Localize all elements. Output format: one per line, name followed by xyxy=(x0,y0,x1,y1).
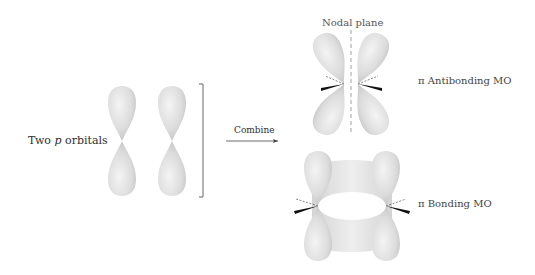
two-p-orbitals-label: Two p orbitals xyxy=(28,134,108,147)
antibonding-mo xyxy=(308,28,394,140)
bonding-mo xyxy=(294,151,410,261)
bracket xyxy=(199,84,203,197)
bonding-label: π Bonding MO xyxy=(418,198,492,209)
nodal-plane-label: Nodal plane xyxy=(322,17,383,28)
combine-arrow xyxy=(226,139,278,143)
p-orbital-right xyxy=(158,86,186,196)
antibonding-label: π Antibonding MO xyxy=(418,75,512,86)
p-orbital-left xyxy=(108,86,136,196)
combine-label: Combine xyxy=(234,125,275,135)
